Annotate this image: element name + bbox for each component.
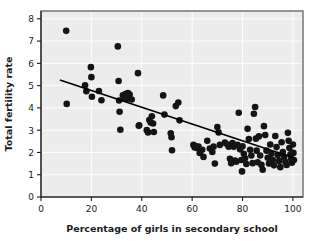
y-tick-label: 2 — [28, 148, 34, 158]
data-point — [116, 108, 123, 115]
data-point — [252, 104, 259, 111]
data-point — [290, 150, 297, 157]
data-point — [136, 122, 143, 129]
data-point — [235, 110, 242, 117]
data-point — [262, 132, 269, 139]
data-point — [251, 110, 258, 117]
x-axis-title: Percentage of girls in secondary school — [66, 223, 277, 234]
data-point — [160, 92, 167, 99]
data-point — [88, 74, 95, 81]
y-axis-title: Total fertility rate — [3, 57, 14, 152]
y-axis-ticks: 012345678 — [28, 14, 41, 202]
data-point — [243, 161, 250, 168]
data-point — [200, 154, 207, 161]
data-point — [168, 134, 175, 141]
x-tick-label: 100 — [284, 204, 301, 214]
data-point — [257, 152, 264, 159]
y-tick-label: 8 — [28, 14, 34, 24]
data-point — [259, 167, 266, 174]
data-point — [239, 168, 246, 175]
data-point — [210, 143, 217, 150]
chart-canvas: 020406080100 012345678 Percentage of gir… — [0, 0, 314, 241]
y-tick-label: 1 — [28, 170, 34, 180]
data-point — [248, 152, 255, 159]
data-point — [212, 160, 219, 167]
data-point — [271, 162, 278, 169]
data-point — [244, 126, 251, 133]
data-point — [256, 133, 263, 140]
data-point — [128, 96, 135, 103]
data-point — [242, 155, 249, 162]
data-point — [98, 97, 105, 104]
data-point — [204, 138, 211, 145]
data-point — [115, 78, 122, 85]
y-tick-label: 6 — [28, 59, 34, 69]
data-point — [115, 43, 122, 50]
data-point — [278, 139, 285, 146]
data-point — [290, 141, 297, 148]
x-tick-label: 0 — [38, 204, 44, 214]
y-tick-label: 0 — [28, 192, 34, 202]
data-point — [267, 141, 274, 148]
data-point — [239, 143, 246, 150]
x-tick-label: 20 — [86, 204, 98, 214]
data-point — [63, 28, 70, 35]
data-point — [149, 113, 156, 120]
data-point — [135, 70, 142, 77]
y-tick-label: 4 — [28, 103, 34, 113]
data-point — [277, 164, 284, 171]
y-tick-label: 7 — [28, 36, 34, 46]
data-point — [169, 147, 176, 154]
data-point — [89, 93, 96, 100]
data-point — [273, 144, 280, 151]
x-tick-label: 40 — [136, 204, 148, 214]
scatter-chart-figure: 020406080100 012345678 Percentage of gir… — [0, 0, 314, 241]
data-point — [247, 146, 254, 153]
data-point — [88, 64, 95, 71]
data-point — [285, 130, 292, 137]
y-tick-label: 3 — [28, 126, 34, 136]
data-point — [117, 126, 124, 133]
data-point — [150, 120, 157, 127]
data-point — [199, 146, 206, 153]
data-point — [272, 133, 279, 140]
data-point — [261, 123, 268, 130]
data-point — [151, 129, 158, 136]
data-point — [63, 101, 70, 108]
x-axis-ticks: 020406080100 — [38, 197, 302, 214]
data-point — [175, 99, 182, 106]
x-tick-label: 80 — [237, 204, 249, 214]
y-tick-label: 5 — [28, 81, 34, 91]
data-point — [145, 129, 152, 136]
x-tick-label: 60 — [186, 204, 198, 214]
